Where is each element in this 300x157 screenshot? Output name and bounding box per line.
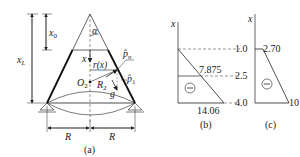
xL-label: xL (16, 54, 25, 67)
r-right-label: R (108, 131, 115, 142)
diagram-b: x 7.875 14.06 (b) (170, 18, 240, 131)
c-tick-3: 4.0 (235, 97, 248, 108)
caption-b: (b) (200, 119, 212, 131)
c-value-bottom: 10 (289, 97, 299, 108)
caption-c: (c) (265, 119, 276, 131)
p1-label: p̂1 (126, 73, 136, 86)
r-of-x-label: r(x) (93, 60, 107, 71)
c-axis-label: x (247, 13, 253, 24)
x-label: x (81, 53, 87, 64)
pn-label: p̂n (122, 48, 132, 61)
figure-canvas: x0 xL α x r(x) p̂n p̂1 O2 R2 g R R (a) x… (0, 0, 300, 157)
b-axis-label: x (170, 18, 176, 29)
c-tick-1: 1.0 (235, 43, 248, 54)
x0-label: x0 (48, 27, 57, 40)
caption-a: (a) (84, 144, 95, 156)
c-distribution-shape (255, 49, 289, 103)
b-value-mid: 7.875 (199, 64, 222, 75)
c-value-top: 2.70 (263, 43, 281, 54)
r-left-label: R (64, 131, 71, 142)
shell-left-edge (47, 50, 73, 103)
r2-label: R2 (96, 79, 107, 92)
o2-label: O2 (77, 77, 88, 90)
g-label: g (110, 88, 115, 99)
diagram-c: x 1.0 2.5 4.0 2.70 10 (c) (235, 13, 299, 131)
alpha-label: α (92, 25, 98, 36)
c-tick-2: 2.5 (235, 70, 248, 81)
b-value-bottom: 14.06 (197, 105, 220, 116)
cone-diagram: x0 xL α x r(x) p̂n p̂1 O2 R2 g R R (a) (16, 14, 144, 156)
